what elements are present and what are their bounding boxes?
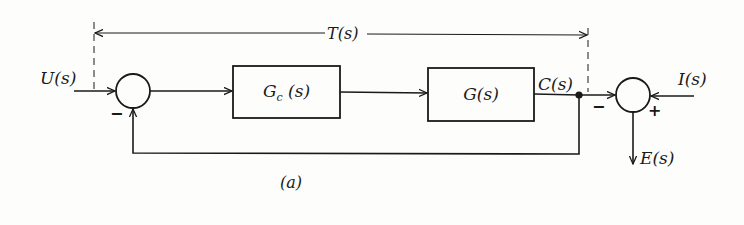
summing-junction-1: [116, 74, 150, 108]
error-signal-label: E(s): [640, 150, 674, 167]
disturbance-signal-label: I(s): [678, 71, 707, 88]
feedback-path: [133, 95, 579, 154]
plant-label: G(s): [428, 86, 534, 103]
input-signal-label: U(s): [40, 70, 76, 87]
controller-to-plant: [340, 92, 427, 93]
sum2-plus-sign: +: [648, 103, 661, 119]
span-arrow-right: [367, 34, 587, 35]
sum2-minus-sign: −: [592, 99, 605, 115]
controller-label: Gc (s): [233, 83, 340, 103]
summing-junction-2: [616, 78, 650, 112]
plant-output-line: [534, 94, 579, 95]
takeoff-point: [575, 91, 582, 98]
output-signal-label: C(s): [538, 76, 573, 93]
figure-caption: (a): [280, 175, 302, 191]
span-label: T(s): [327, 26, 358, 42]
feedback-minus-sign: −: [110, 106, 123, 122]
